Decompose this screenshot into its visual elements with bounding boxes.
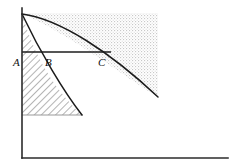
- point-label-b: B: [45, 56, 52, 68]
- diagram-svg: A B C: [0, 0, 237, 168]
- point-label-c: C: [98, 56, 106, 68]
- point-label-a: A: [12, 56, 20, 68]
- figure-canvas: A B C: [0, 0, 237, 168]
